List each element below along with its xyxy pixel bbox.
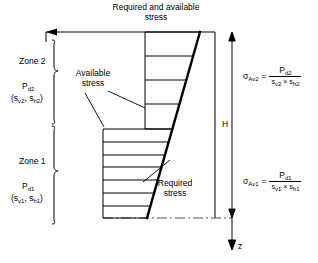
figure-title-line2: stress — [76, 12, 236, 22]
zone1-available-stress-block — [103, 129, 172, 218]
available-stress-line1: Available — [64, 68, 122, 78]
zone2-load-subscript: d2 — [28, 86, 35, 92]
equation-av2: σAv2 = Pd2 sv2 × sh2 — [243, 65, 301, 87]
zone2-spacing-sub1: v2 — [18, 98, 24, 104]
zone2-spacing-close: ) — [40, 93, 43, 103]
required-stress-callout: Required stress — [146, 178, 204, 198]
equation-av1-fraction: Pd1 sv1 × sh1 — [269, 170, 301, 192]
zone1-load-label: Pd1 — [22, 181, 34, 192]
zone2-spacing-sub2: h2 — [33, 98, 40, 104]
equation-av1-num-subscript: d1 — [285, 175, 292, 181]
equation-av1-den-s1-sub: v1 — [275, 186, 281, 192]
equation-av2-lhs: σAv2 — [243, 71, 258, 82]
equation-av2-den-s2-sub: h2 — [293, 81, 300, 87]
zone2-name-label: Zone 2 — [19, 56, 45, 66]
available-stress-leader-lines — [85, 91, 145, 127]
zone1-spacing-sub1: v1 — [18, 198, 24, 204]
equation-av2-numerator: Pd2 — [269, 65, 301, 77]
equation-av2-equals: = — [261, 71, 266, 81]
equation-av1-lhs: σAv1 — [243, 176, 258, 187]
top-axis-arrow-icon — [46, 29, 57, 36]
zone2-load-symbol: P — [22, 81, 28, 91]
equation-av2-den-s1-sub: v2 — [275, 81, 281, 87]
zone1-name-label: Zone 1 — [19, 156, 45, 166]
required-stress-line2: stress — [146, 188, 204, 198]
available-stress-callout: Available stress — [64, 68, 122, 88]
equation-av2-fraction: Pd2 sv2 × sh2 — [269, 65, 301, 87]
zone1-spacing-sub2: h1 — [33, 198, 40, 204]
zone1-spacing-close: ) — [40, 193, 43, 203]
equation-av2-lhs-subscript: Av2 — [248, 76, 258, 82]
height-dimension-label: H — [222, 119, 228, 129]
equation-av1-equals: = — [261, 176, 266, 186]
equation-av1-numerator: Pd1 — [269, 170, 301, 182]
stress-distribution-diagram — [0, 0, 318, 263]
zone1-brace — [52, 126, 58, 224]
zone1-load-symbol: P — [22, 181, 28, 191]
equation-av1-denominator: sv1 × sh1 — [269, 182, 301, 192]
zone2-available-stress-block — [145, 32, 200, 129]
zone1-load-subscript: d1 — [28, 186, 35, 192]
equation-av1-den-s2-sub: h1 — [293, 186, 300, 192]
figure-canvas: Required and available stress Zone 2 Pd2… — [0, 0, 318, 263]
required-stress-line1: Required — [146, 178, 204, 188]
equation-av2-denominator: sv2 × sh2 — [269, 77, 301, 87]
zone2-load-label: Pd2 — [22, 81, 34, 92]
available-stress-line2: stress — [64, 78, 122, 88]
equation-av1-den-times: × — [283, 183, 287, 190]
equation-av2-num-subscript: d2 — [285, 70, 292, 76]
figure-title: Required and available stress — [76, 2, 236, 22]
height-dimension-line — [229, 32, 235, 218]
zone2-brace — [52, 40, 58, 124]
zone1-spacing-label: (sv1, sh1) — [11, 193, 43, 204]
zone2-spacing-label: (sv2, sh2) — [11, 93, 43, 104]
z-axis-label: z — [238, 241, 242, 251]
figure-title-line1: Required and available — [76, 2, 236, 12]
equation-av1: σAv1 = Pd1 sv1 × sh1 — [243, 170, 301, 192]
equation-av2-den-times: × — [283, 78, 287, 85]
equation-av1-lhs-subscript: Av1 — [248, 181, 258, 187]
z-axis-arrow — [228, 218, 235, 250]
